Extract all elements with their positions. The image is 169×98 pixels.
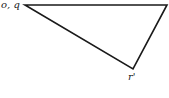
triangle-outline: [25, 5, 167, 69]
label-r-prime: r': [128, 72, 136, 82]
label-oq: o, q: [1, 0, 20, 10]
vector-triangle: [0, 0, 169, 98]
